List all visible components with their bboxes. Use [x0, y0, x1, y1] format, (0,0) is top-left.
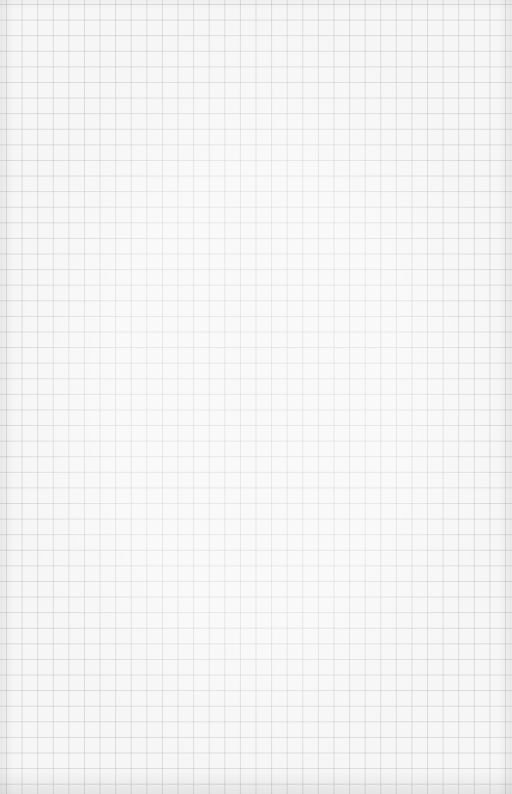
grid-paper: [0, 0, 512, 794]
edge-shading: [0, 0, 512, 794]
